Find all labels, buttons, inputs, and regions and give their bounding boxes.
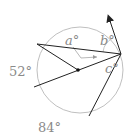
label-c: c° xyxy=(105,61,119,76)
label-arc-84: 84° xyxy=(38,120,61,135)
circle-diagram: a° b° c° 52° 84° xyxy=(0,0,132,137)
angle-a-pointer-head xyxy=(93,55,97,59)
label-a: a° xyxy=(65,33,79,48)
label-b: b° xyxy=(100,33,115,48)
center-point xyxy=(76,68,80,72)
label-arc-52: 52° xyxy=(9,64,32,79)
